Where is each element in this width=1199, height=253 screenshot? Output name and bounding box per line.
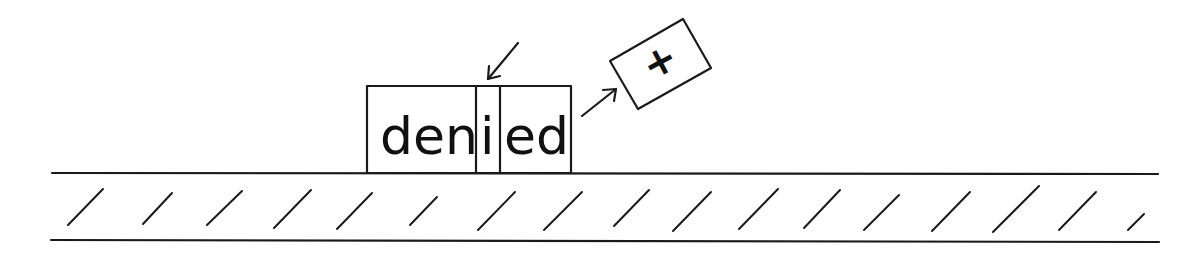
ground-bottom-line xyxy=(51,240,1159,242)
plus-icon: + xyxy=(634,33,685,89)
morphology-diagram: den i ed + xyxy=(0,0,1199,253)
ground xyxy=(51,173,1159,242)
suffix-box: + xyxy=(610,19,711,109)
segment-suffix: ed xyxy=(504,106,569,166)
segment-root: den xyxy=(380,106,478,166)
ground-top-line xyxy=(52,173,1158,174)
segment-changed-letter: i xyxy=(480,106,494,166)
ground-hatching xyxy=(68,186,1144,232)
down-arrow-icon xyxy=(488,43,518,79)
word-box: den i ed xyxy=(367,86,571,173)
arrow-to-suffix-box-icon xyxy=(582,89,616,116)
